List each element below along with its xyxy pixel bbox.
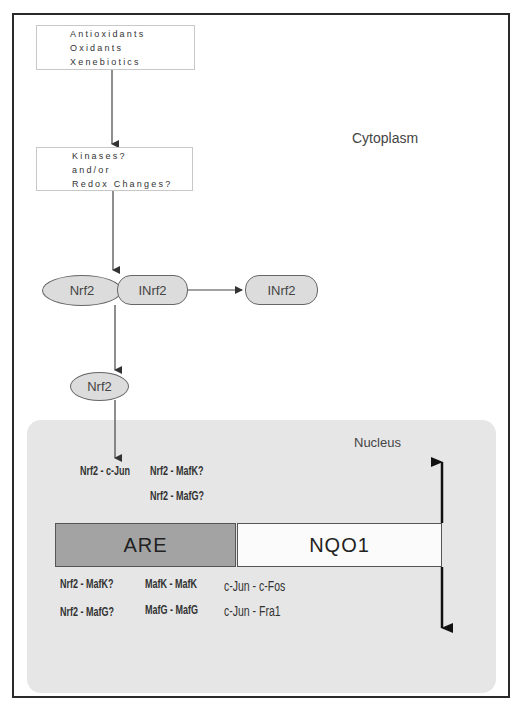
stimulus-line-3: Xenebiotics — [70, 55, 145, 69]
complex-nrf2-mafg-top: Nrf2 - MafG? — [150, 489, 204, 503]
nrf2-bound-label: Nrf2 — [70, 283, 95, 298]
nqo1-gene: NQO1 — [237, 523, 442, 567]
are-label: ARE — [123, 534, 167, 557]
complex-nrf2-mafg-bottom: Nrf2 - MafG? — [60, 605, 114, 619]
stimulus-line-2: Oxidants — [70, 41, 145, 55]
stimulus-line-1: Antioxidants — [70, 27, 145, 41]
signal-line-2: and/or — [72, 163, 172, 177]
inrf2-released-label: INrf2 — [267, 283, 295, 298]
complex-cjun-fra1: c-Jun - Fra1 — [224, 603, 281, 619]
complex-mafk-mafk: MafK - MafK — [145, 577, 197, 591]
complex-nrf2-cjun: Nrf2 - c-Jun — [80, 464, 130, 478]
inrf2-bound-label: INrf2 — [138, 283, 166, 298]
inrf2-released-node: INrf2 — [245, 275, 318, 305]
cytoplasm-label: Cytoplasm — [352, 130, 418, 146]
complex-nrf2-mafk-bottom: Nrf2 - MafK? — [60, 577, 114, 591]
are-element: ARE — [55, 523, 236, 567]
nucleus-label: Nucleus — [354, 435, 401, 450]
nrf2-free-label: Nrf2 — [87, 379, 112, 394]
nqo1-label: NQO1 — [309, 534, 370, 557]
signal-box: Kinases? and/or Redox Changes? — [36, 147, 193, 191]
inrf2-bound-node: INrf2 — [117, 275, 188, 305]
signal-line-3: Redox Changes? — [72, 177, 172, 191]
complex-cjun-cfos: c-Jun - c-Fos — [224, 578, 285, 594]
signal-line-1: Kinases? — [72, 149, 172, 163]
nrf2-free-node: Nrf2 — [70, 372, 129, 401]
stimulus-box: Antioxidants Oxidants Xenebiotics — [36, 25, 195, 70]
nrf2-bound-node: Nrf2 — [42, 275, 122, 306]
complex-mafg-mafg: MafG - MafG — [145, 603, 198, 617]
complex-nrf2-mafk-top: Nrf2 - MafK? — [150, 464, 204, 478]
